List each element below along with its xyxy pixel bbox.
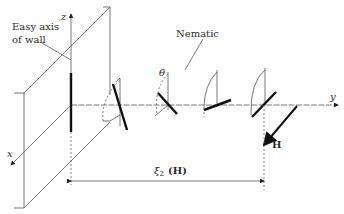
xi-subscript: 2	[160, 170, 164, 178]
director-1	[103, 78, 127, 130]
field-label: H	[272, 139, 281, 150]
easy-axis-label-line2: of wall	[12, 34, 46, 45]
wall-easy-axis: Easy axis of wall	[12, 21, 71, 185]
x-axis: x	[7, 105, 71, 165]
z-axis-label: z	[60, 11, 67, 22]
easy-axis-leader	[42, 43, 71, 60]
y-axis-label: y	[329, 91, 336, 102]
director-3	[204, 70, 231, 117]
nematic-leader	[185, 39, 203, 70]
director-2: θ	[155, 67, 177, 116]
nematic-label-group: Nematic	[176, 28, 219, 70]
wall-top-edge	[24, 7, 110, 93]
director-4	[251, 68, 276, 117]
wall-bottom-edge	[24, 122, 110, 208]
x-axis-label: x	[7, 148, 13, 159]
coherence-length-dimension: ξ2(H)	[71, 105, 264, 190]
z-axis: z	[60, 11, 71, 105]
xi-argument: (H)	[168, 165, 187, 176]
nematic-label: Nematic	[176, 28, 219, 39]
coherence-length-label: ξ2(H)	[154, 165, 187, 178]
field-arrow: H	[264, 106, 297, 150]
easy-axis-label-line1: Easy axis	[12, 21, 59, 32]
theta-label: θ	[159, 67, 165, 78]
nematic-wall-diagram: z x y Easy axis of wall θ	[0, 0, 344, 214]
